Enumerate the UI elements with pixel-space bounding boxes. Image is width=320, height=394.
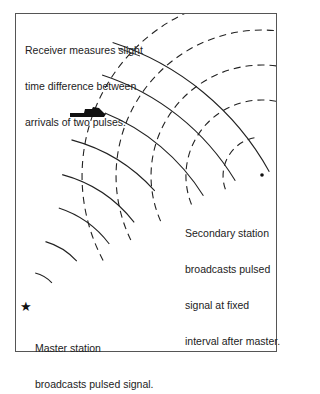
secondary-label-line: Secondary station	[185, 227, 280, 239]
dot-icon	[260, 173, 264, 177]
master-station-label: Master station broadcasts pulsed signal.	[35, 318, 154, 394]
secondary-label-line: interval after master.	[185, 335, 280, 347]
secondary-wavefront-arc	[151, 65, 293, 221]
star-icon: ★	[20, 299, 32, 314]
receiver-label: Receiver measures slight time difference…	[25, 20, 143, 140]
master-wavefront-arc	[59, 208, 110, 244]
master-wavefront-arc	[35, 273, 52, 283]
secondary-leader-line	[196, 196, 204, 202]
secondary-wavefront-arc	[223, 137, 259, 189]
receiver-label-line: time difference between	[25, 80, 143, 92]
secondary-station-label: Secondary station broadcasts pulsed sign…	[185, 203, 280, 359]
master-label-line: Master station	[35, 342, 154, 354]
secondary-wavefront-arc	[186, 100, 286, 205]
receiver-label-line: arrivals of two pulses.	[25, 116, 143, 128]
secondary-label-line: signal at fixed	[185, 299, 280, 311]
receiver-label-line: Receiver measures slight	[25, 44, 143, 56]
master-wavefront-arc	[72, 140, 155, 191]
master-label-line: broadcasts pulsed signal.	[35, 378, 154, 390]
master-wavefront-arc	[46, 242, 77, 262]
secondary-label-line: broadcasts pulsed	[185, 263, 280, 275]
master-wavefront-arc	[62, 175, 134, 223]
